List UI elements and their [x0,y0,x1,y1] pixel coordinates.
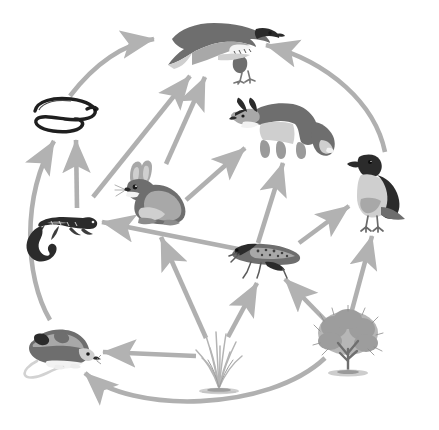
grasshopper-icon [225,236,305,280]
organism-hawk[interactable] [158,11,286,85]
mouse-icon [15,321,101,379]
snake-icon [27,93,107,143]
fox-icon [217,90,337,160]
organism-mouse[interactable] [15,321,101,379]
arrow-tree-to-robin [352,236,372,310]
tree-icon [310,305,386,385]
arrow-lizard-to-snake [76,140,77,208]
food-web-diagram: Hawk Fox Robin Snake Lizard Mouse Rabbit… [0,0,439,430]
organism-lizard[interactable] [23,206,103,268]
organism-fox[interactable] [217,90,337,160]
robin-icon [335,149,409,235]
organism-tree[interactable] [310,305,386,385]
organism-robin[interactable] [335,149,409,235]
arrow-grass-to-mouse [103,352,196,356]
organism-grasshopper[interactable] [225,236,305,280]
rabbit-icon [113,156,191,228]
lizard-icon [23,206,103,268]
arrow-snake-to-hawk [70,39,154,96]
hawk-icon [158,11,286,85]
organism-snake[interactable] [27,93,107,143]
organism-grass[interactable] [186,326,252,398]
arrow-grass-to-rabbit [161,237,206,338]
organism-rabbit[interactable] [113,156,191,228]
arrow-grasshopper-to-fox [258,163,283,243]
arrow-rabbit-to-hawk [166,77,205,164]
grass-icon [186,326,252,398]
